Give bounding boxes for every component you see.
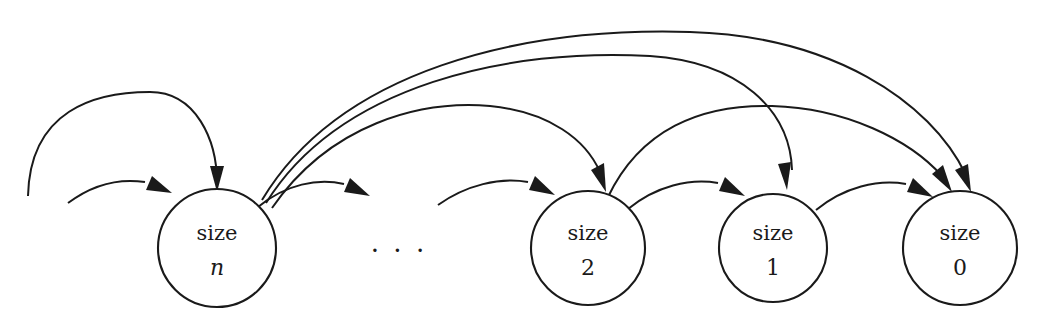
node-size-1-circle[interactable]	[719, 194, 827, 302]
node-size-2-circle[interactable]	[531, 191, 645, 305]
node-size-0-label-value: 0	[953, 255, 967, 280]
node-size-1-label-value: 1	[766, 255, 780, 280]
node-size-2-label-value: 2	[581, 255, 595, 280]
node-size-n[interactable]: size n	[158, 189, 276, 307]
edge-size-n-to-size-2	[272, 105, 606, 208]
node-size-0-circle[interactable]	[903, 191, 1017, 305]
node-size-2[interactable]: size 2	[531, 191, 645, 305]
node-size-0-label-top: size	[940, 221, 981, 245]
ellipsis-label: . . .	[371, 228, 427, 258]
edge-size-2-to-size-1	[628, 177, 745, 209]
node-size-1[interactable]: size 1	[719, 194, 827, 302]
edge-into-size-n-inner	[68, 176, 172, 203]
node-size-n-circle[interactable]	[158, 189, 276, 307]
node-size-n-label-value: n	[210, 255, 224, 280]
node-size-n-label-top: size	[197, 221, 238, 245]
node-size-1-label-top: size	[753, 221, 794, 245]
edge-size-1-to-size-0	[816, 178, 933, 210]
edge-ellipsis-to-size-2	[438, 176, 555, 205]
edge-size-n-to-size-0	[262, 32, 971, 200]
size-transition-graph: size n size 2 size 1 size 0 . . .	[0, 0, 1041, 318]
diagram-canvas: size n size 2 size 1 size 0 . . .	[0, 0, 1041, 318]
edge-size-n-to-size-1	[266, 55, 792, 203]
node-size-0[interactable]: size 0	[903, 191, 1017, 305]
node-size-2-label-top: size	[568, 221, 609, 245]
